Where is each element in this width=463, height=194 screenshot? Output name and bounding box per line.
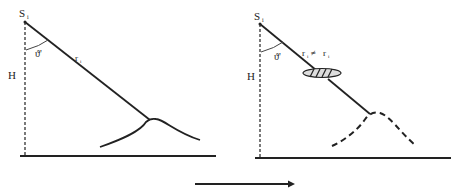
left-panel: S i ϑ' H r i xyxy=(8,7,216,156)
right-ray-label-right-subscript: i xyxy=(328,54,330,59)
left-ray-label: r xyxy=(75,53,78,63)
left-source-dot xyxy=(24,21,27,24)
transition-arrow xyxy=(195,181,295,188)
left-source-subscript: i xyxy=(27,14,29,20)
cloud-obstruction xyxy=(303,69,341,78)
right-ray-label-left-subscript: i xyxy=(307,54,309,59)
right-ray-label-right: r xyxy=(323,48,326,58)
right-mountain-profile xyxy=(332,113,414,146)
left-source-label: S xyxy=(19,7,25,19)
arrow-head-icon xyxy=(288,181,295,188)
right-height-label: H xyxy=(247,70,255,82)
left-ray xyxy=(25,22,150,120)
relation-symbol: ≠ xyxy=(311,48,316,58)
right-ray-lower xyxy=(328,79,370,114)
left-mountain-profile xyxy=(100,119,200,147)
right-panel: S i ϑ' H r i ≠ r i xyxy=(247,10,451,158)
right-ray-upper xyxy=(260,24,316,70)
right-angle-label: ϑ' xyxy=(274,51,281,62)
left-ray-subscript: i xyxy=(80,59,82,64)
right-ray-label-left: r xyxy=(302,48,305,58)
right-source-label: S xyxy=(254,10,260,22)
left-height-label: H xyxy=(8,69,16,81)
diagram-canvas: S i ϑ' H r i S i ϑ' H r xyxy=(0,0,463,194)
left-angle-label: ϑ' xyxy=(35,48,42,59)
right-source-subscript: i xyxy=(262,17,264,23)
